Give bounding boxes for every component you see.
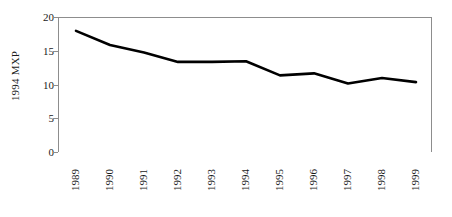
x-axis-tick-label: 1999 (408, 158, 422, 214)
y-axis-tick-mark (53, 152, 58, 153)
x-axis-tick-label: 1991 (136, 158, 150, 214)
x-axis-tick-label-text: 1999 (409, 169, 421, 191)
y-axis-tick-label: 20 (30, 12, 54, 23)
x-axis-tick-label-text: 1994 (239, 169, 251, 191)
x-axis-tick-label-text: 1995 (273, 169, 285, 191)
x-axis-tick-label-text: 1997 (341, 169, 353, 191)
y-axis-title-label: 1994 MXP (9, 51, 21, 101)
plot-area (58, 17, 432, 152)
data-line-svg (59, 18, 433, 153)
y-axis-tick-mark (53, 118, 58, 119)
x-axis-tick-label-text: 1996 (307, 169, 319, 191)
x-axis-tick-label-text: 1989 (69, 169, 81, 191)
x-axis-tick-label: 1989 (68, 158, 82, 214)
x-axis-tick-label-text: 1991 (137, 169, 149, 191)
line-chart-figure: 1994 MXP 05101520 1989199019911992199319… (0, 0, 452, 217)
x-axis-tick-label: 1993 (204, 158, 218, 214)
x-axis-tick-label: 1997 (340, 158, 354, 214)
y-axis-tick-label: 10 (30, 79, 54, 90)
x-axis-tick-label: 1996 (306, 158, 320, 214)
y-axis-tick-label: 0 (30, 147, 54, 158)
y-axis-title: 1994 MXP (0, 0, 30, 152)
y-axis-tick-label: 15 (30, 45, 54, 56)
x-axis-tick-label: 1990 (102, 158, 116, 214)
y-axis-tick-label: 5 (30, 113, 54, 124)
x-axis-tick-label: 1995 (272, 158, 286, 214)
x-axis-tick-label-text: 1993 (205, 169, 217, 191)
x-axis-tick-label-text: 1998 (375, 169, 387, 191)
y-axis-tick-mark (53, 17, 58, 18)
x-axis-tick-label-text: 1990 (103, 169, 115, 191)
x-axis-tick-label-group: 1989199019911992199319941995199619971998… (58, 152, 432, 217)
x-axis-tick-label: 1998 (374, 158, 388, 214)
x-axis-tick-label: 1992 (170, 158, 184, 214)
y-axis-tick-mark (53, 51, 58, 52)
y-axis-tick-label-group: 05101520 (28, 0, 54, 217)
x-axis-tick-label-text: 1992 (171, 169, 183, 191)
data-series-line (76, 31, 416, 84)
y-axis-tick-mark (53, 85, 58, 86)
x-axis-tick-label: 1994 (238, 158, 252, 214)
